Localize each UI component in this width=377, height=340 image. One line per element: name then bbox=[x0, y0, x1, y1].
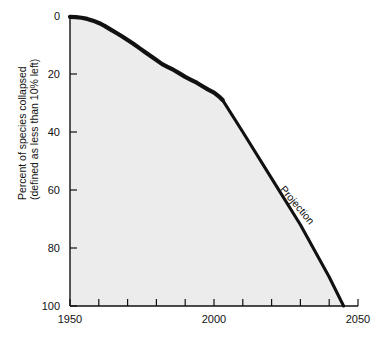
y-axis-tick-labels: 020406080100 bbox=[42, 10, 60, 312]
x-tick-label: 2050 bbox=[346, 313, 370, 325]
area-fill-under-curve bbox=[70, 16, 344, 306]
x-axis-tick-labels: 195020002050 bbox=[58, 313, 370, 325]
y-axis-title-line2: (defined as less than 10% left) bbox=[28, 59, 40, 200]
y-axis-title-line1: Percent of species collapsed bbox=[16, 66, 28, 200]
y-tick-label: 80 bbox=[48, 242, 60, 254]
species-collapse-line-chart: 020406080100 195020002050 Percent of spe… bbox=[0, 0, 377, 340]
chart-figure-root: 020406080100 195020002050 Percent of spe… bbox=[0, 0, 377, 340]
y-axis-title: Percent of species collapsed (defined as… bbox=[16, 59, 40, 200]
y-tick-label: 20 bbox=[48, 68, 60, 80]
y-tick-label: 40 bbox=[48, 126, 60, 138]
x-tick-label: 2000 bbox=[202, 313, 226, 325]
y-tick-label: 60 bbox=[48, 184, 60, 196]
chart-canvas: 020406080100 195020002050 Percent of spe… bbox=[0, 0, 377, 340]
x-tick-label: 1950 bbox=[58, 313, 82, 325]
y-tick-label: 100 bbox=[42, 300, 60, 312]
y-tick-label: 0 bbox=[54, 10, 60, 22]
